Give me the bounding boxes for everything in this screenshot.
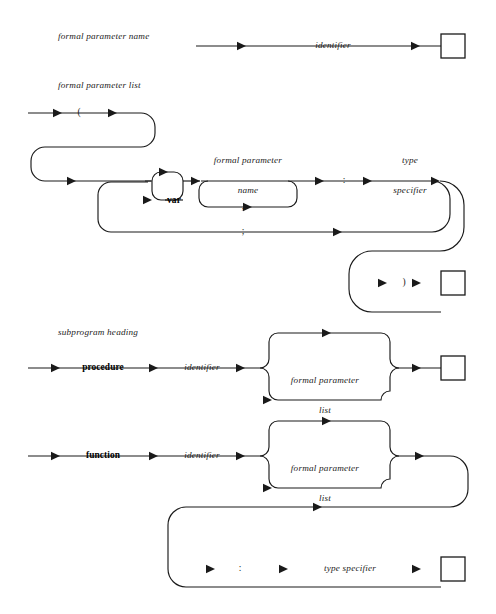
diagram-canvas: formal parameter name identifier formal … xyxy=(0,0,496,614)
node-formal-parameter-name: formal parameter name xyxy=(214,134,282,216)
node-function: function xyxy=(86,450,120,461)
heading-formal-parameter-list: formal parameter list xyxy=(58,80,141,90)
node-procedure: procedure xyxy=(82,362,124,373)
node-var: var xyxy=(167,195,181,206)
node-function-colon: : xyxy=(239,563,242,574)
node-identifier: identifier xyxy=(315,40,351,50)
node-procedure-formal-parameter-list: formal parameter list xyxy=(291,354,359,436)
node-comma: , xyxy=(242,201,244,212)
node-colon: : xyxy=(343,175,346,186)
node-rparen: ) xyxy=(402,277,405,288)
node-type-specifier: type specifier xyxy=(393,134,426,216)
rail-group-function xyxy=(28,417,468,587)
node-fpname-line1: formal parameter xyxy=(214,154,282,164)
node-procedure-identifier: identifier xyxy=(184,362,220,372)
node-function-identifier: identifier xyxy=(184,450,220,460)
node-lparen: ( xyxy=(77,107,80,118)
node-proc-fplist-line2: list xyxy=(291,405,359,415)
node-typespec-line1: type xyxy=(393,154,426,164)
node-func-fplist-line1: formal parameter xyxy=(291,462,359,472)
heading-formal-parameter-name: formal parameter name xyxy=(58,31,149,41)
node-func-fplist-line2: list xyxy=(291,493,359,503)
node-semicolon: ; xyxy=(242,226,245,237)
heading-subprogram-heading: subprogram heading xyxy=(58,327,138,337)
node-typespec-line2: specifier xyxy=(393,185,426,195)
railroad-rails xyxy=(0,0,496,614)
node-proc-fplist-line1: formal parameter xyxy=(291,374,359,384)
node-function-formal-parameter-list: formal parameter list xyxy=(291,442,359,524)
node-function-type-specifier: type specifier xyxy=(324,563,376,573)
node-fpname-line2: name xyxy=(214,185,282,195)
